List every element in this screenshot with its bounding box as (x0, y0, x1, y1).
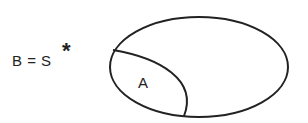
subset-a-boundary (113, 50, 187, 116)
venn-diagram (0, 0, 308, 123)
outer-set-ellipse (110, 17, 288, 117)
subset-a-label: A (138, 74, 148, 91)
